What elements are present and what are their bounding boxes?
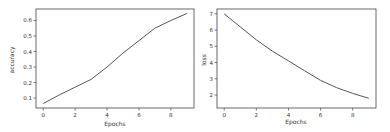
loss-x-axis: 02468 [222,108,354,118]
accuracy-y-tick-label: 0.3 [23,64,32,70]
accuracy-x-tick-label: 0 [41,112,45,118]
loss-x-label: Epochs [285,118,307,126]
loss-y-tick-label: 2 [210,92,214,98]
figure: 02468 0.10.20.30.40.50.6 Epochs accuracy… [0,0,390,132]
accuracy-y-tick-label: 0.1 [23,95,32,101]
loss-y-tick-label: 6 [210,27,214,33]
loss-x-tick-label: 6 [319,112,323,118]
loss-y-tick-label: 3 [210,76,214,82]
accuracy-x-tick-label: 6 [137,112,141,118]
loss-x-tick-label: 8 [351,112,355,118]
accuracy-x-label: Epochs [104,120,126,128]
accuracy-y-tick-label: 0.4 [23,49,32,55]
accuracy-plot-frame [36,9,194,108]
accuracy-x-tick-label: 8 [169,112,173,118]
accuracy-x-tick-label: 2 [73,112,77,118]
accuracy-y-tick-label: 0.6 [23,17,32,23]
loss-y-tick-label: 7 [210,11,214,17]
loss-y-label: loss [200,54,207,66]
accuracy-chart: 02468 0.10.20.30.40.50.6 Epochs accuracy [8,9,194,128]
loss-y-axis: 234567 [210,11,218,98]
accuracy-y-axis: 0.10.20.30.40.50.6 [23,17,36,101]
loss-x-tick-label: 0 [222,112,226,118]
accuracy-x-tick-label: 4 [105,112,109,118]
loss-chart: 02468 234567 Epochs loss [200,9,376,126]
accuracy-x-axis: 02468 [41,108,173,118]
accuracy-y-tick-label: 0.2 [23,80,32,86]
loss-x-tick-label: 2 [255,112,259,118]
loss-y-tick-label: 4 [210,60,214,66]
accuracy-y-tick-label: 0.5 [23,33,32,39]
loss-y-tick-label: 5 [210,43,214,49]
accuracy-y-label: accuracy [8,46,16,74]
